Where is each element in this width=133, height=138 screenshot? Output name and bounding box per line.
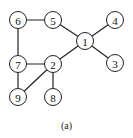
node-5: 5 — [45, 12, 62, 29]
node-1: 1 — [77, 33, 94, 50]
node-label: 8 — [50, 92, 56, 104]
node-label: 5 — [50, 15, 56, 27]
node-4: 4 — [107, 12, 124, 29]
node-label: 7 — [15, 59, 21, 71]
node-8: 8 — [45, 89, 62, 106]
graph-diagram: 123456789 — [0, 0, 133, 138]
node-label: 3 — [112, 58, 118, 70]
node-label: 4 — [112, 15, 118, 27]
edges-layer — [18, 20, 115, 97]
node-9: 9 — [10, 89, 27, 106]
node-label: 2 — [50, 59, 56, 71]
node-3: 3 — [107, 55, 124, 72]
node-label: 9 — [15, 92, 21, 104]
node-label: 1 — [82, 36, 88, 48]
figure-caption: (a) — [0, 120, 133, 131]
node-label: 6 — [15, 15, 21, 27]
node-6: 6 — [10, 12, 27, 29]
node-7: 7 — [10, 56, 27, 73]
node-2: 2 — [45, 56, 62, 73]
